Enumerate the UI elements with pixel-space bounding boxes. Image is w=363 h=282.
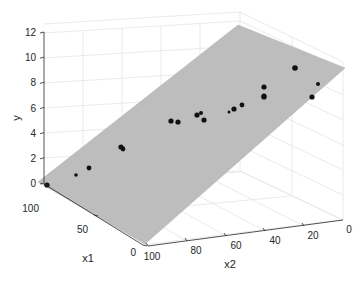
data-point <box>194 112 199 117</box>
x1-tick-50: 50 <box>77 224 89 235</box>
data-point <box>261 84 266 89</box>
data-point <box>199 111 203 115</box>
data-point <box>121 147 126 152</box>
x2-tick-60: 60 <box>230 240 242 251</box>
y-axis: 024681012 y <box>10 27 44 189</box>
data-point <box>240 103 245 108</box>
y-tick-4: 4 <box>30 128 36 139</box>
data-point <box>292 65 298 71</box>
x2-tick-80: 80 <box>190 245 202 256</box>
x2-tick-20: 20 <box>307 230 319 241</box>
y-tick-8: 8 <box>30 77 36 88</box>
data-point <box>309 94 314 99</box>
y-tick-10: 10 <box>25 52 37 63</box>
data-point <box>74 173 78 177</box>
y-tick-0: 0 <box>30 178 36 189</box>
data-point <box>175 119 180 124</box>
data-point <box>201 117 206 122</box>
y-tick-6: 6 <box>30 103 36 114</box>
data-point <box>168 118 173 123</box>
data-point <box>231 106 236 111</box>
y-tick-2: 2 <box>30 153 36 164</box>
x2-tick-0: 0 <box>346 224 352 235</box>
x2-axis-label: x2 <box>224 258 236 270</box>
y-tick-12: 12 <box>25 27 37 38</box>
data-point <box>316 82 320 86</box>
x2-tick-40: 40 <box>269 235 281 246</box>
x2-tick-100: 100 <box>144 251 161 262</box>
x2-axis: 100 80 60 40 20 0 x2 <box>144 220 353 270</box>
3d-scatter-chart: 024681012 y 100 50 0 x1 100 80 60 40 20 … <box>0 0 363 282</box>
y-axis-label: y <box>10 115 22 121</box>
x1-tick-0: 0 <box>130 247 136 258</box>
regression-plane <box>38 25 345 244</box>
data-point <box>228 111 231 114</box>
data-point <box>87 166 92 171</box>
x1-axis-label: x1 <box>82 252 94 264</box>
data-point <box>261 93 266 98</box>
x1-tick-100: 100 <box>22 203 39 214</box>
